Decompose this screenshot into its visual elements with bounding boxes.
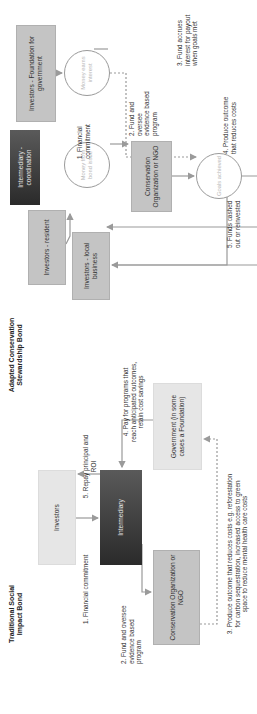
traditional-step-2: 2. Fund and oversee evidence based progr… [120, 594, 143, 664]
traditional-step-3: 3. Produce outcome that reduces costs e.… [226, 454, 249, 654]
traditional-step-5: 5. Repay principal and ROI [82, 429, 97, 504]
adapted-step-4: 4. Produce outcome that reduces costs [222, 84, 237, 154]
adapted-step-3: 3. Fund accrues interest for payout when… [176, 0, 199, 66]
conservation-org-box-traditional: Conservation Organization or NGO [153, 550, 200, 645]
investors-local-business-box: Investors - local business [72, 232, 110, 300]
investors-foundation-box: Investors - Foundation for government [16, 25, 56, 122]
conservation-org-box: Conservation Organization or NGO [131, 141, 172, 212]
adapted-step-2: 2. Fund and oversee evidence based progr… [128, 74, 158, 136]
investors-resident-box: Investors - resident [28, 210, 66, 285]
government-box: Government (in some cases a Foundation) [153, 383, 202, 470]
adapted-title: Adapted Conservation Stewardship Bond [8, 315, 25, 395]
traditional-step-4: 4. Pay for programs that reach anticipat… [122, 352, 145, 452]
diagram-canvas: Adapted Conservation Stewardship Bond In… [0, 0, 257, 714]
money-earns-interest-circle: Money earns interest [64, 50, 110, 96]
intermediary-coordination-box: Intermediary - coordination [10, 130, 40, 205]
investors-box: Investors [38, 470, 76, 565]
traditional-step-1: 1. Financial commitment [82, 534, 90, 624]
traditional-title: Traditional Social Impact Bond [8, 578, 25, 650]
intermediary-box: Intermediary [100, 470, 142, 565]
adapted-step-5: 5. Funds cashed out or reinvested [226, 188, 241, 248]
adapted-step-1: 1. Financial commitment [76, 99, 91, 159]
